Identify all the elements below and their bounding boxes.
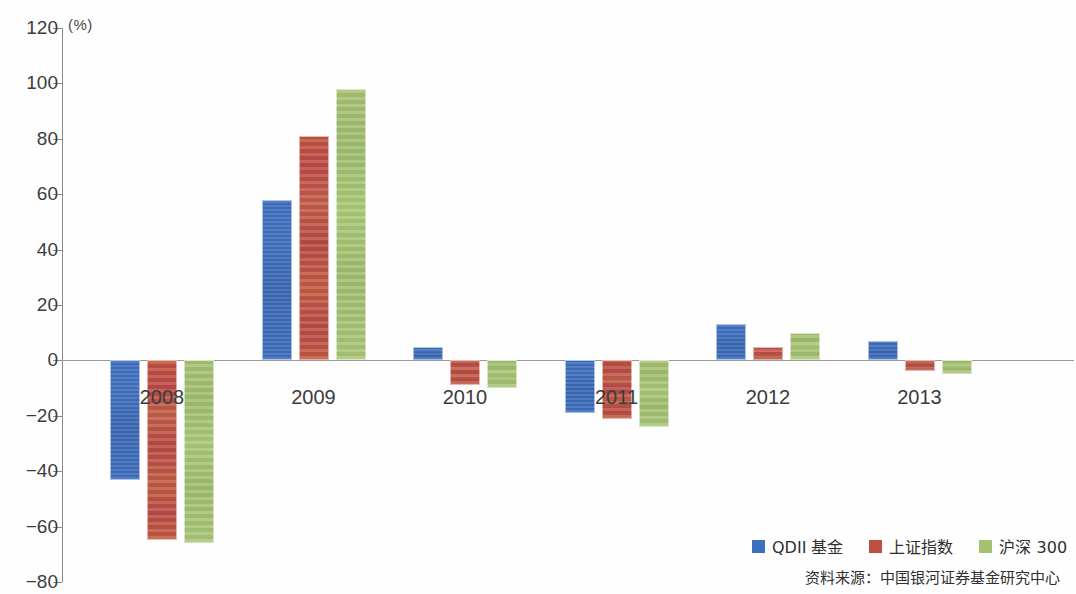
- bar-2008-blue: [110, 360, 140, 479]
- x-axis-label-2010: 2010: [443, 386, 488, 409]
- x-axis-label-2009: 2009: [291, 386, 336, 409]
- x-axis-label-2012: 2012: [746, 386, 791, 409]
- x-axis-label-2008: 2008: [140, 386, 185, 409]
- chart-legend: QDII 基金上证指数沪深 300: [752, 534, 1067, 558]
- x-axis-label-2013: 2013: [897, 386, 942, 409]
- bar-2011-green: [639, 360, 669, 426]
- chart-canvas: (%) 120100806040200−20−40−60−80 20082009…: [0, 0, 1076, 594]
- legend-label: 沪深 300: [999, 534, 1067, 558]
- y-tick-label: 80: [37, 128, 58, 150]
- legend-swatch-icon: [869, 540, 882, 553]
- bar-2013-green: [942, 360, 972, 374]
- y-tick-label: −80: [26, 571, 58, 593]
- bar-2009-red: [299, 136, 329, 360]
- bar-2012-green: [790, 333, 820, 361]
- y-tick-label: −60: [26, 516, 58, 538]
- y-tick-label: 100: [26, 72, 58, 94]
- y-tick-label: −20: [26, 405, 58, 427]
- bar-2010-red: [450, 360, 480, 385]
- bar-2013-blue: [868, 341, 898, 360]
- x-axis-label-2011: 2011: [595, 386, 638, 409]
- bar-2010-green: [487, 360, 517, 388]
- legend-swatch-icon: [752, 540, 765, 553]
- bar-2010-blue: [413, 347, 443, 361]
- legend-item-1[interactable]: QDII 基金: [752, 534, 843, 558]
- y-tick-label: 20: [37, 294, 58, 316]
- y-tick-label: 0: [47, 349, 58, 371]
- legend-swatch-icon: [979, 540, 992, 553]
- bar-2013-red: [905, 360, 935, 371]
- legend-item-2[interactable]: 上证指数: [869, 534, 953, 558]
- y-tick-label: 60: [37, 183, 58, 205]
- bar-2011-blue: [565, 360, 595, 413]
- y-tick-label: 40: [37, 239, 58, 261]
- legend-label: QDII 基金: [772, 534, 843, 558]
- bar-2008-green: [184, 360, 214, 543]
- source-note: 资料来源：中国银河证券基金研究中心: [805, 566, 1060, 587]
- plot-area: [62, 28, 1074, 582]
- legend-label: 上证指数: [889, 534, 953, 558]
- legend-item-3[interactable]: 沪深 300: [979, 534, 1067, 558]
- bar-2009-blue: [262, 200, 292, 361]
- y-tick-label: 120: [26, 17, 58, 39]
- y-tick-label: −40: [26, 460, 58, 482]
- bar-2012-red: [753, 347, 783, 361]
- bar-2009-green: [336, 89, 366, 360]
- bar-2012-blue: [716, 324, 746, 360]
